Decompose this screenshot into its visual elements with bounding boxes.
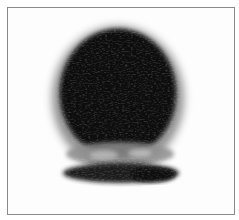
blob-light-speck: [128, 149, 152, 157]
blob-base-texture: [63, 158, 183, 184]
ink-blob-image: [8, 8, 234, 214]
image-frame: [7, 7, 235, 215]
